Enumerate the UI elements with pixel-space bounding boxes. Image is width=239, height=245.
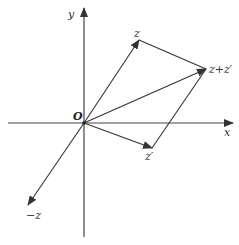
vector-z-prime	[84, 123, 152, 148]
vector-minus-z	[28, 123, 84, 205]
z-prime-label: z′	[144, 150, 154, 163]
y-axis-label: y	[67, 8, 75, 21]
edge-z-to-sum	[139, 40, 206, 69]
minus-z-label: −z	[26, 209, 41, 222]
z-plus-z-prime-label: z+z′	[208, 63, 233, 76]
x-axis-label: x	[224, 126, 231, 139]
origin-label: O	[73, 110, 83, 123]
complex-plane-diagram: O x y z z′ z+z′ −z	[0, 0, 239, 245]
z-label: z	[133, 27, 140, 40]
origin-point	[82, 121, 86, 125]
